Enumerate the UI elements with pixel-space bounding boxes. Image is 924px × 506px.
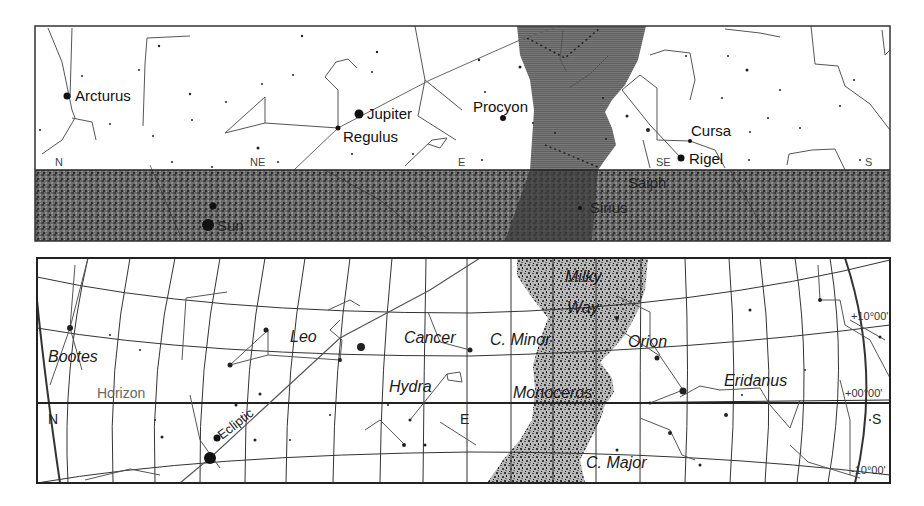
- constellation-label: Bootes: [48, 348, 98, 365]
- compass-e: E: [458, 156, 465, 168]
- star-marker-icon: [578, 206, 582, 210]
- compass-e: E: [460, 411, 469, 427]
- star-label: Sun: [217, 217, 244, 234]
- star-label: Sirius: [590, 199, 628, 216]
- constellation-label: Leo: [290, 328, 317, 345]
- star-regulus: Regulus: [336, 126, 399, 146]
- constellation-label: C. Minor: [490, 331, 551, 348]
- compass-s: S: [872, 411, 881, 427]
- star-label: Jupiter: [367, 105, 412, 122]
- constellation-label: Milky: [565, 268, 602, 285]
- sky-chart-figure: ArcturusJupiterRegulusProcyonCursaRigel …: [0, 0, 924, 506]
- constellation-label: Hydra: [389, 378, 432, 395]
- star-marker-icon: [678, 155, 685, 162]
- compass-n: N: [55, 156, 63, 168]
- grid-view-panel: BootesLeoCancerC. MinorMilkyWayOrionHydr…: [37, 258, 890, 483]
- star-label: Rigel: [689, 150, 723, 167]
- compass-s: S: [865, 156, 872, 168]
- grid-background: [37, 258, 890, 483]
- declination-label: -10°00': [851, 464, 886, 476]
- star-saiph: Saiph: [628, 174, 666, 191]
- horizon-label: Horizon: [97, 385, 145, 401]
- sun-marker: [204, 452, 216, 464]
- declination-label: +00°00': [845, 387, 882, 399]
- star-marker-icon: [355, 110, 364, 119]
- constellation-label: Way: [567, 299, 600, 316]
- compass-n: N: [48, 411, 58, 427]
- star-marker-icon: [500, 115, 506, 121]
- star-marker-icon: [64, 93, 71, 100]
- constellation-label: Eridanus: [724, 372, 787, 389]
- horizon-view-panel: ArcturusJupiterRegulusProcyonCursaRigel …: [35, 26, 890, 241]
- star-marker-icon: [202, 219, 214, 231]
- star-marker-icon: [688, 139, 692, 143]
- compass-se: SE: [656, 156, 671, 168]
- star-label: Arcturus: [75, 87, 131, 104]
- star-label: Regulus: [343, 128, 398, 145]
- star-label: Saiph: [628, 174, 666, 191]
- constellation-label: Monoceros: [513, 384, 592, 401]
- star-label: Procyon: [473, 98, 528, 115]
- compass-ne: NE: [250, 156, 265, 168]
- star-label: Cursa: [691, 122, 732, 139]
- declination-label: +10°00': [851, 310, 888, 322]
- constellation-label: Cancer: [404, 329, 456, 346]
- star-marker-icon: [336, 126, 341, 131]
- constellation-label: C. Major: [586, 454, 647, 471]
- planet-marker: [210, 203, 217, 210]
- ground-below-horizon: [35, 170, 890, 241]
- constellation-label: Orion: [628, 333, 667, 350]
- sky-chart-svg: ArcturusJupiterRegulusProcyonCursaRigel …: [0, 0, 924, 506]
